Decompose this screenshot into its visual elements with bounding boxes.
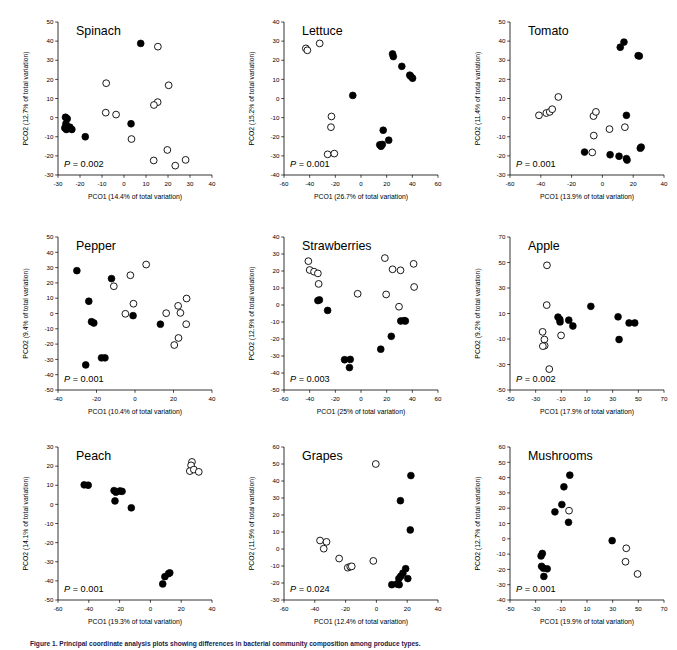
data-point: [385, 137, 392, 144]
data-point: [589, 149, 596, 156]
svg-text:P = 0.001: P = 0.001: [290, 159, 330, 169]
data-point: [396, 581, 403, 588]
data-point: [381, 255, 388, 262]
x-tick-label: -20: [76, 180, 86, 187]
x-tick-label: 0: [133, 395, 137, 402]
y-tick-label: 0: [276, 301, 280, 308]
p-value-annotation: P = 0.002: [64, 159, 104, 169]
p-value-annotation: P = 0.024: [290, 584, 330, 594]
x-tick-label: 40: [435, 605, 442, 612]
y-tick-label: 40: [273, 18, 280, 25]
data-point: [555, 94, 562, 101]
figure-caption: Figure 1. Principal coordinate analysis …: [30, 640, 650, 650]
data-point: [90, 320, 97, 327]
x-tick-label: -60: [54, 605, 64, 612]
data-point: [85, 298, 92, 305]
x-axis-title: PCO1 (19.9% of total variation): [540, 618, 634, 626]
y-tick-label: -20: [45, 340, 55, 347]
data-point: [347, 356, 354, 363]
y-tick-label: 20: [47, 76, 54, 83]
x-tick-label: 70: [661, 395, 668, 402]
x-tick-label: -60: [280, 605, 290, 612]
data-point: [119, 488, 126, 495]
x-tick-label: 20: [165, 180, 172, 187]
x-tick-label: 10: [584, 395, 591, 402]
x-tick-label: -60: [280, 395, 290, 402]
y-tick-label: 10: [273, 76, 280, 83]
y-axis-ticks: -40-30-20-100102030405060: [497, 443, 510, 603]
data-point: [128, 120, 135, 127]
x-axis-title: PCO1 (25% of total variation): [317, 408, 405, 416]
y-axis-ticks: -30-20-100102030405060: [271, 443, 284, 603]
data-point: [536, 112, 543, 119]
data-point: [102, 109, 109, 116]
panel-title: Grapes: [302, 449, 343, 463]
x-axis-ticks: -60-40-2002040: [280, 600, 442, 612]
data-point: [609, 537, 616, 544]
data-point: [328, 113, 335, 120]
panel-pepper: -50-40-30-20-1001020304050-40-2002040PCO…: [0, 215, 226, 425]
x-tick-label: 40: [409, 395, 416, 402]
x-tick-label: 60: [435, 395, 442, 402]
y-axis-title: PCO2 (14.1% of total variation): [22, 476, 30, 570]
x-axis-ticks: -60-40-200204060: [280, 175, 442, 187]
x-tick-label: -40: [84, 605, 94, 612]
data-point: [565, 519, 572, 526]
data-point: [557, 319, 564, 326]
y-tick-label: 50: [499, 459, 506, 466]
data-point: [324, 307, 331, 314]
data-point: [540, 573, 547, 580]
y-tick-label: -40: [45, 577, 55, 584]
x-axis-ticks: -40-2002040: [54, 390, 216, 402]
data-point: [172, 162, 179, 169]
p-value-annotation: P = 0.002: [516, 374, 556, 384]
data-point: [410, 260, 417, 267]
y-axis-ticks: -40-30-20-10010203040: [271, 18, 284, 178]
series-open: [186, 459, 202, 476]
data-point: [388, 581, 395, 588]
y-tick-label: 0: [502, 535, 506, 542]
x-tick-label: 20: [404, 605, 411, 612]
y-tick-label: -10: [271, 318, 281, 325]
data-point: [552, 508, 559, 515]
panel-strawberries: -50-40-30-20-10010203040-60-40-200204060…: [226, 215, 452, 425]
data-point: [569, 323, 576, 330]
pco-figure: -30-20-1001020304050-30-20-10010203040PC…: [0, 0, 677, 650]
series-filled: [388, 472, 414, 588]
data-point: [607, 151, 614, 158]
x-tick-label: -40: [54, 395, 64, 402]
y-tick-label: 20: [499, 76, 506, 83]
data-point: [616, 336, 623, 343]
svg-text:P = 0.001: P = 0.001: [516, 584, 556, 594]
data-point: [380, 127, 387, 134]
data-point: [113, 111, 120, 118]
data-point: [316, 297, 323, 304]
data-point: [346, 364, 353, 371]
y-tick-label: 10: [47, 481, 54, 488]
y-tick-label: -20: [271, 579, 281, 586]
y-tick-label: 40: [47, 249, 54, 256]
data-point: [164, 147, 171, 154]
data-point: [390, 53, 397, 60]
y-tick-label: -40: [497, 596, 507, 603]
data-point: [372, 461, 379, 468]
y-tick-label: 10: [499, 520, 506, 527]
data-point: [128, 504, 135, 511]
p-value-annotation: P = 0.003: [290, 374, 330, 384]
y-axis-ticks: -50-40-30-20-10010203040: [271, 233, 284, 393]
data-point: [544, 565, 551, 572]
svg-text:P = 0.024: P = 0.024: [290, 584, 330, 594]
data-point: [183, 295, 190, 302]
y-tick-label: 40: [499, 37, 506, 44]
y-tick-label: -30: [45, 356, 55, 363]
x-axis-ticks: -30-20-10010203040: [54, 175, 216, 187]
data-point: [397, 267, 404, 274]
data-point: [165, 82, 172, 89]
y-axis-title: PCO2 (11.4% of total variation): [474, 52, 482, 146]
series-open: [102, 43, 189, 169]
y-tick-label: 70: [499, 233, 506, 240]
data-point: [316, 40, 323, 47]
data-point: [82, 362, 89, 369]
data-point: [587, 303, 594, 310]
data-point: [409, 75, 416, 82]
